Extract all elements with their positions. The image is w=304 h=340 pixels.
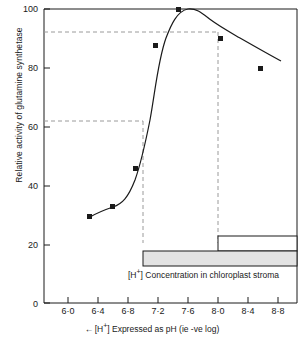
data-point bbox=[133, 166, 138, 171]
data-point bbox=[87, 214, 92, 219]
data-point bbox=[176, 7, 181, 12]
chart-figure: Relative activity of glutamine synthetas… bbox=[0, 0, 304, 340]
dark-bar bbox=[143, 251, 297, 266]
light-bar bbox=[218, 236, 297, 251]
data-curve bbox=[90, 9, 281, 217]
data-point bbox=[218, 36, 223, 41]
data-point bbox=[110, 204, 115, 209]
x-tick-marks bbox=[68, 297, 278, 303]
data-point bbox=[258, 66, 263, 71]
y-tick-marks bbox=[44, 9, 50, 303]
data-points bbox=[87, 7, 263, 219]
condition-bars bbox=[143, 236, 297, 266]
guide-lines bbox=[44, 32, 218, 243]
data-point bbox=[153, 43, 158, 48]
plot-canvas bbox=[0, 0, 304, 340]
